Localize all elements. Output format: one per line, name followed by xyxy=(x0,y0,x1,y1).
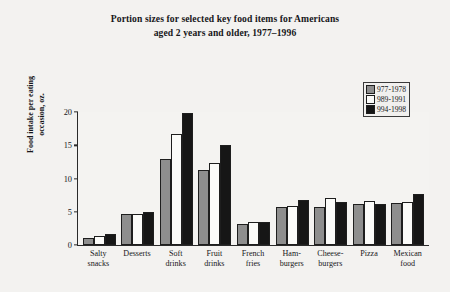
x-axis-label: Cheese-burgers xyxy=(311,249,350,269)
legend-swatch-icon-2 xyxy=(366,105,375,114)
bar xyxy=(413,194,424,245)
legend-swatch-icon-0 xyxy=(366,85,375,94)
bar-group xyxy=(157,112,196,245)
x-axis-label-line-2: food xyxy=(388,259,427,269)
chart-title-line-1: Portion sizes for selected key food item… xyxy=(111,13,339,24)
x-axis-label: Ham-burgers xyxy=(272,249,311,269)
bar xyxy=(182,113,193,245)
x-axis-label-line-1: Cheese- xyxy=(317,249,343,258)
x-axis-label-line-2: fries xyxy=(234,259,273,269)
x-axis-label-line-1: Soft xyxy=(169,249,183,258)
bar xyxy=(143,212,154,245)
bar xyxy=(248,222,259,245)
x-axis-label-line-2: drinks xyxy=(156,259,195,269)
x-axis-label: Fruitdrinks xyxy=(195,249,234,269)
x-axis-label: Saltysnacks xyxy=(79,249,118,269)
x-axis-label-line-2: snacks xyxy=(79,259,118,269)
y-axis-title: Food intake per eating occasion, oz. xyxy=(26,40,47,190)
bar xyxy=(276,207,287,245)
x-axis-label-line-1: Mexican xyxy=(394,249,422,258)
bar xyxy=(94,236,105,245)
x-axis-label-line-1: Ham- xyxy=(282,249,300,258)
x-axis-label-line-2: drinks xyxy=(195,259,234,269)
x-axis-label: Desserts xyxy=(118,249,157,269)
y-axis-title-line-2: occasion, oz. xyxy=(36,40,47,190)
x-axis-label-line-1: Fruit xyxy=(206,249,222,258)
y-axis-title-line-1: Food intake per eating xyxy=(26,76,35,153)
x-axis-label-line-1: Desserts xyxy=(123,249,150,258)
legend-item-2: 994-1998 xyxy=(366,105,406,114)
bar xyxy=(259,222,270,245)
bar xyxy=(220,145,231,245)
bar xyxy=(83,238,94,245)
x-axis-label: Pizza xyxy=(350,249,389,269)
bar xyxy=(105,234,116,245)
bar xyxy=(198,170,209,245)
bar xyxy=(287,206,298,245)
bar-group xyxy=(273,112,312,245)
plot-area: 05101520 xyxy=(77,112,429,246)
bar xyxy=(132,214,143,245)
bar-groups xyxy=(78,112,429,245)
bar xyxy=(364,201,375,245)
x-axis-label-line-2: burgers xyxy=(272,259,311,269)
x-axis-label: Softdrinks xyxy=(156,249,195,269)
x-axis-label-line-1: Salty xyxy=(90,249,107,258)
legend-label-0: 977-1978 xyxy=(377,85,406,94)
bar xyxy=(391,203,402,245)
x-axis-label-line-2: burgers xyxy=(311,259,350,269)
bar xyxy=(375,204,386,245)
x-axis-label-line-1: French xyxy=(242,249,264,258)
bar-group xyxy=(389,112,428,245)
bar xyxy=(171,134,182,245)
bar xyxy=(298,200,309,245)
legend-label-2: 994-1998 xyxy=(377,105,406,114)
bar xyxy=(402,202,413,245)
legend-item-0: 977-1978 xyxy=(366,85,406,94)
x-axis-label: Mexicanfood xyxy=(388,249,427,269)
bar-group xyxy=(311,112,350,245)
bar-group xyxy=(350,112,389,245)
x-axis-labels: SaltysnacksDessertsSoftdrinksFruitdrinks… xyxy=(77,249,429,269)
chart-title-line-2: aged 2 years and older, 1977–1996 xyxy=(0,26,450,40)
legend-item-1: 989-1991 xyxy=(366,95,406,104)
legend-label-1: 989-1991 xyxy=(377,95,406,104)
bar xyxy=(336,202,347,245)
bar xyxy=(314,207,325,245)
bar-group xyxy=(119,112,158,245)
x-axis-label: Frenchfries xyxy=(234,249,273,269)
bar xyxy=(325,198,336,245)
bar xyxy=(353,204,364,245)
bar xyxy=(160,159,171,245)
chart-figure: Portion sizes for selected key food item… xyxy=(0,0,450,292)
chart-title: Portion sizes for selected key food item… xyxy=(0,12,450,39)
bar xyxy=(209,163,220,245)
bar xyxy=(237,224,248,245)
bar-group xyxy=(80,112,119,245)
chart-legend: 977-1978 989-1991 994-1998 xyxy=(363,82,410,117)
bar-group xyxy=(234,112,273,245)
legend-swatch-icon-1 xyxy=(366,95,375,104)
bar-group xyxy=(196,112,235,245)
bar xyxy=(121,214,132,245)
x-axis-label-line-1: Pizza xyxy=(360,249,378,258)
